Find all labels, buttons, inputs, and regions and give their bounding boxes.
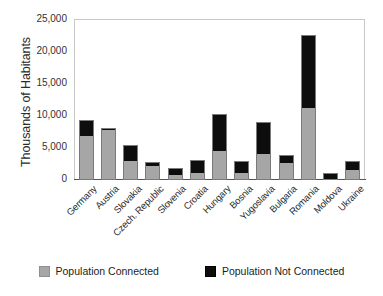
bar-romania (301, 35, 316, 180)
legend-label-population-connected: Population Connected (56, 266, 159, 277)
x-tick-label-germany: Germany (64, 183, 99, 218)
bar-segment-connected (345, 170, 360, 180)
bar-segment-connected (79, 136, 94, 180)
y-tick-label-15000: 15,000 (19, 78, 67, 88)
legend-label-population-not-connected: Population Not Connected (222, 266, 345, 277)
bar-slovenia (168, 168, 183, 180)
bar-bosnia (234, 161, 249, 180)
bar-segment-not-connected (345, 161, 360, 170)
bar-segment-not-connected (212, 114, 227, 151)
bar-segment-not-connected (279, 155, 294, 163)
bar-segment-not-connected (256, 122, 271, 155)
bar-segment-connected (101, 130, 116, 180)
y-tick-label-0: 0 (19, 174, 67, 184)
bar-segment-not-connected (234, 161, 249, 173)
x-tick-label-text: Germany (64, 183, 99, 218)
bar-segment-not-connected (190, 160, 205, 173)
bar-segment-connected (168, 175, 183, 180)
bar-austria (101, 128, 116, 180)
bar-slovakia (123, 145, 138, 180)
bar-moldova (323, 173, 338, 180)
y-tick-label-5000: 5,000 (19, 142, 67, 152)
bar-segment-connected (145, 166, 160, 180)
bar-segment-connected (123, 161, 138, 180)
bar-segment-not-connected (79, 120, 94, 137)
legend-swatch-black-icon (205, 266, 216, 277)
bar-segment-not-connected (123, 145, 138, 161)
chart-legend: Population Connected Population Not Conn… (0, 266, 383, 277)
bar-segment-not-connected (323, 173, 338, 180)
bar-germany (79, 120, 94, 180)
bar-bulgaria (279, 155, 294, 180)
bar-segment-connected (212, 151, 227, 180)
bar-ukraine (345, 161, 360, 180)
bar-segment-connected (234, 173, 249, 180)
bar-segment-connected (301, 108, 316, 180)
bar-segment-connected (279, 163, 294, 180)
bars-container (75, 20, 364, 180)
y-tick-label-10000: 10,000 (19, 110, 67, 120)
y-tick-label-25000: 25,000 (19, 14, 67, 24)
bar-hungary (212, 114, 227, 180)
bar-czech-republic (145, 162, 160, 180)
bar-segment-connected (190, 173, 205, 180)
legend-entry-population-not-connected: Population Not Connected (205, 266, 345, 277)
bar-croatia (190, 160, 205, 180)
stacked-bar-chart: Thousands of Habitants 25,000 20,000 15,… (0, 0, 383, 296)
bar-segment-not-connected (301, 35, 316, 109)
bar-yugoslavia (256, 122, 271, 180)
y-tick-label-20000: 20,000 (19, 46, 67, 56)
legend-swatch-gray-icon (39, 266, 50, 277)
bar-segment-connected (256, 154, 271, 180)
legend-entry-population-connected: Population Connected (39, 266, 159, 277)
